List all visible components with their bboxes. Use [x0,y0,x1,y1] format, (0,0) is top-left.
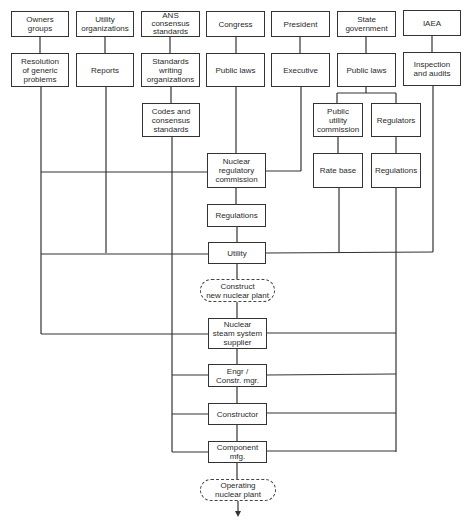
box-rate-base: Rate base [313,153,363,188]
box-regulators: Regulators [371,103,421,137]
box-iaea: IAEA [403,10,461,36]
box-reports: Reports [76,53,134,87]
oval-operating-nuclear-plant: Operating nuclear plant [200,479,276,501]
box-public-utility-commission: Public utility commission [313,103,363,137]
box-owners-groups: Owners groups [11,11,69,37]
box-president: President [271,11,330,37]
box-ans-consensus-standards: ANS consensus standards [141,11,200,37]
box-state-regulations: Regulations [371,153,421,188]
box-nuclear-regulatory-commission: Nuclear regulatory commission [207,153,266,188]
box-congress: Congress [206,11,265,37]
box-public-laws-federal: Public laws [206,53,265,87]
box-inspection-audits: Inspection and audits [403,52,461,86]
box-codes-consensus-standards: Codes and consensus standards [142,103,200,137]
box-state-government: State government [337,11,396,37]
box-public-laws-state: Public laws [337,53,396,87]
box-nrc-regulations: Regulations [207,204,266,227]
box-utility: Utility [208,242,266,264]
box-utility-organizations: Utility organizations [76,11,134,37]
oval-construct-new-nuclear-plant: Construct new nuclear plant [200,279,275,302]
box-constructor: Constructor [208,403,267,425]
box-executive: Executive [271,53,330,87]
box-standards-writing-organizations: Standards writing organizations [141,53,200,87]
box-resolution-generic-problems: Resolution of generic problems [11,53,69,87]
box-component-mfg: Component mfg. [208,441,267,463]
box-engr-constr-mgr: Engr / Constr. mgr. [208,364,267,387]
regulatory-flow-diagram: Owners groups Utility organizations ANS … [0,0,473,526]
box-nuclear-steam-system-supplier: Nuclear steam system supplier [208,318,267,349]
arrow-down-icon [235,511,241,517]
